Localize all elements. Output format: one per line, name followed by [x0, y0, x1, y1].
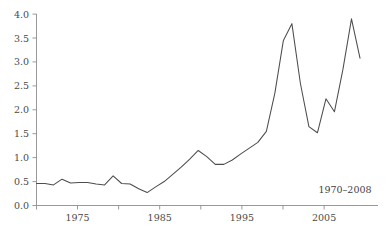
- y-tick-label-0-5: 0.5: [14, 176, 29, 187]
- chart-container: 0.0 0.5 1.0 1.5 2.0 2.5 3.0 3.5 4.0 1975…: [0, 0, 390, 232]
- y-tick-label-1-0: 1.0: [14, 152, 29, 163]
- x-tick-label-1995: 1995: [230, 212, 254, 223]
- y-tick-label-2-5: 2.5: [14, 80, 29, 91]
- x-axis-ticks: [37, 206, 325, 210]
- y-tick-label-0-0: 0.0: [14, 200, 29, 211]
- x-tick-label-1985: 1985: [148, 212, 172, 223]
- range-annotation-label: 1970–2008: [318, 184, 371, 195]
- x-tick-label-2005: 2005: [312, 212, 336, 223]
- x-tick-label-1975: 1975: [65, 212, 89, 223]
- data-series-line: [37, 19, 361, 193]
- y-axis-ticks: [33, 14, 37, 205]
- y-tick-label-3-5: 3.5: [14, 33, 29, 44]
- y-tick-label-1-5: 1.5: [14, 128, 29, 139]
- y-tick-label-3-0: 3.0: [14, 56, 29, 67]
- y-tick-label-2-0: 2.0: [14, 104, 29, 115]
- y-tick-label-4-0: 4.0: [14, 9, 29, 20]
- line-chart-plot: 0.0 0.5 1.0 1.5 2.0 2.5 3.0 3.5 4.0 1975…: [0, 0, 390, 232]
